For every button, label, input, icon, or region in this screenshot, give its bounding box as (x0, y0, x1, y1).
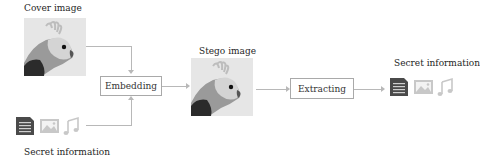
secret-info-left-label: Secret information (24, 147, 110, 157)
connector-line (86, 46, 131, 47)
document-icon (16, 117, 34, 135)
extracting-box: Extracting (290, 78, 354, 99)
stego-image-label: Stego image (199, 46, 256, 56)
connector-line (131, 46, 132, 72)
secret-icons-right (389, 76, 461, 98)
arrow-right-icon (186, 83, 190, 89)
connector-line (86, 125, 132, 126)
connector-line (162, 86, 186, 87)
arrow-up-icon (128, 96, 134, 100)
embedding-box: Embedding (100, 76, 162, 96)
document-icon (390, 78, 408, 96)
connector-line (256, 89, 286, 90)
music-note-icon (64, 118, 79, 135)
secret-icons-left (15, 115, 87, 137)
music-note-icon (438, 79, 453, 96)
cockatiel-icon (24, 18, 86, 76)
stego-image (191, 58, 253, 116)
secret-info-right-label: Secret information (394, 58, 480, 68)
connector-line (354, 89, 381, 90)
cover-image-label: Cover image (24, 3, 82, 13)
image-icon (40, 119, 59, 133)
image-icon (414, 80, 433, 94)
arrow-down-icon (128, 70, 134, 74)
cover-image (24, 18, 86, 76)
arrow-right-icon (381, 86, 385, 92)
connector-line (131, 100, 132, 125)
cockatiel-icon (191, 58, 253, 116)
